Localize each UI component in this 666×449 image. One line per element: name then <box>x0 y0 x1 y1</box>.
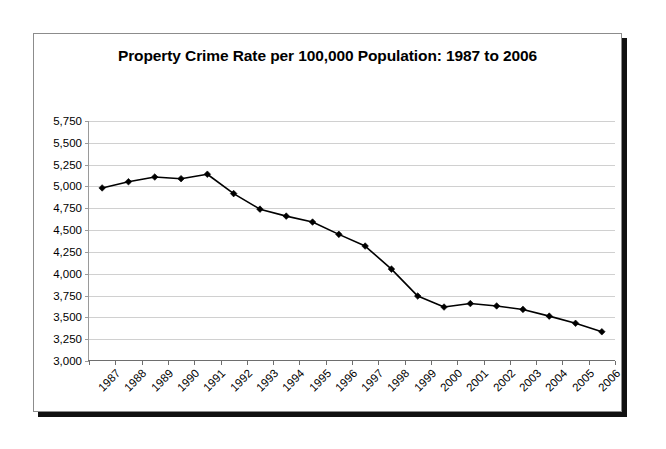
x-axis-tick <box>142 361 143 365</box>
y-axis-label: 4,250 <box>53 246 82 258</box>
data-point-marker <box>151 174 158 181</box>
y-axis-label: 5,000 <box>53 180 82 192</box>
x-axis-label: 1994 <box>280 367 307 394</box>
x-axis-tick <box>168 361 169 365</box>
x-axis-label: 1990 <box>175 367 202 394</box>
x-axis-label: 1989 <box>149 367 176 394</box>
x-axis-tick <box>378 361 379 365</box>
data-point-marker <box>467 300 474 307</box>
x-axis-label: 1992 <box>228 367 255 394</box>
x-axis-label: 1993 <box>254 367 281 394</box>
x-axis-tick <box>221 361 222 365</box>
y-axis-label: 3,500 <box>53 311 82 323</box>
data-point-marker <box>493 303 500 310</box>
plot-area: 5,7505,5005,2505,0004,7504,5004,2504,000… <box>89 121 615 361</box>
data-point-marker <box>99 185 106 192</box>
x-axis-label: 2000 <box>438 367 465 394</box>
x-axis-tick <box>273 361 274 365</box>
x-axis-tick <box>115 361 116 365</box>
x-axis-tick <box>352 361 353 365</box>
x-axis-tick <box>405 361 406 365</box>
data-point-marker <box>257 206 264 213</box>
x-axis-tick <box>326 361 327 365</box>
data-point-marker <box>520 306 527 313</box>
y-axis-label: 4,000 <box>53 268 82 280</box>
x-axis-tick <box>194 361 195 365</box>
x-axis-label: 2004 <box>543 367 570 394</box>
y-axis-label: 3,250 <box>53 333 82 345</box>
x-axis-label: 2005 <box>569 367 596 394</box>
data-point-marker <box>441 304 448 311</box>
x-axis-tick <box>589 361 590 365</box>
x-axis-tick <box>299 361 300 365</box>
y-axis-label: 4,750 <box>53 202 82 214</box>
x-axis-label: 1987 <box>96 367 123 394</box>
data-point-marker <box>546 313 553 320</box>
y-axis-label: 3,750 <box>53 290 82 302</box>
y-axis-label: 3,000 <box>53 355 82 367</box>
data-series-property-crime-rate <box>89 121 615 361</box>
y-axis-label: 5,500 <box>53 137 82 149</box>
x-axis-label: 1988 <box>122 367 149 394</box>
x-axis-label: 1999 <box>412 367 439 394</box>
data-point-marker <box>336 231 343 238</box>
x-axis-label: 1991 <box>201 367 228 394</box>
x-axis-tick <box>484 361 485 365</box>
x-axis-tick <box>536 361 537 365</box>
y-axis-label: 5,750 <box>53 115 82 127</box>
chart-object-frame: Property Crime Rate per 100,000 Populati… <box>33 33 622 412</box>
x-axis-label: 2001 <box>464 367 491 394</box>
data-point-marker <box>125 178 132 185</box>
x-axis-tick <box>562 361 563 365</box>
x-axis-tick <box>510 361 511 365</box>
x-axis-tick <box>615 361 616 365</box>
x-axis-label: 2003 <box>517 367 544 394</box>
x-axis-label: 1995 <box>306 367 333 394</box>
x-axis-tick <box>431 361 432 365</box>
screenshot-page: Property Crime Rate per 100,000 Populati… <box>0 0 666 449</box>
x-axis-tick <box>89 361 90 365</box>
x-axis-tick <box>247 361 248 365</box>
data-point-marker <box>178 175 185 182</box>
data-point-marker <box>283 213 290 220</box>
chart-title: Property Crime Rate per 100,000 Populati… <box>34 47 621 65</box>
x-axis-tick <box>457 361 458 365</box>
y-axis-label: 4,500 <box>53 224 82 236</box>
data-point-marker <box>309 219 316 226</box>
x-axis-label: 1996 <box>333 367 360 394</box>
x-axis-label: 1998 <box>385 367 412 394</box>
series-line <box>102 174 602 332</box>
x-axis-label: 2006 <box>596 367 623 394</box>
x-axis-label: 2002 <box>491 367 518 394</box>
data-point-marker <box>599 328 606 335</box>
data-point-marker <box>572 320 579 327</box>
x-axis-label: 1997 <box>359 367 386 394</box>
y-axis-label: 5,250 <box>53 159 82 171</box>
